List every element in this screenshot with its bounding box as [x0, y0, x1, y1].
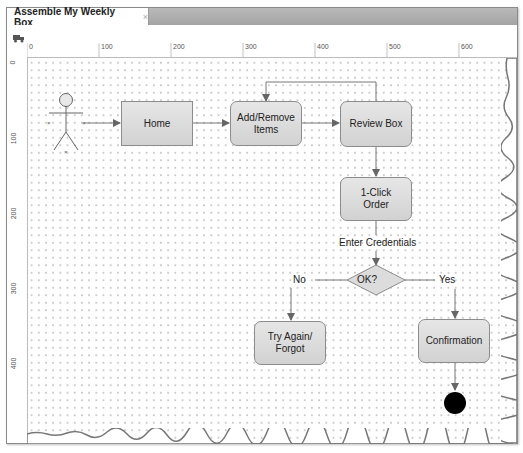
node-add-remove-items[interactable]: Add/RemoveItems	[230, 101, 302, 146]
node-1-click-line2: Order	[363, 199, 389, 210]
horizontal-ruler: 0 100 200 300 400 500 600	[27, 43, 517, 58]
torn-edge-bottom	[27, 428, 517, 444]
edge-label-no: No	[293, 274, 306, 285]
svg-text:×: ×	[47, 120, 51, 126]
ruler-h-200: 200	[173, 43, 185, 50]
ruler-h-600: 600	[461, 43, 473, 50]
node-try-again-line1: Try Again/	[268, 331, 313, 342]
svg-text:×: ×	[82, 120, 86, 126]
tab-assemble-my-weekly-box[interactable]: Assemble My Weekly Box ×	[7, 8, 149, 25]
tab-bar: Assemble My Weekly Box ×	[7, 8, 517, 25]
close-icon[interactable]: ×	[143, 12, 148, 22]
ruler-h-0: 0	[29, 43, 33, 50]
diagram-window: Assemble My Weekly Box × 0 100 200 300 4…	[6, 7, 518, 444]
torn-edge-right	[501, 58, 517, 443]
toolbar	[7, 25, 517, 43]
decision-label[interactable]: OK?	[357, 274, 377, 285]
edge-label-yes: Yes	[439, 274, 455, 285]
ruler-v-0: 0	[9, 61, 16, 65]
ruler-h-300: 300	[245, 43, 257, 50]
node-home[interactable]: Home	[121, 101, 193, 146]
node-home-label: Home	[144, 118, 171, 130]
ruler-h-100: 100	[101, 43, 113, 50]
ruler-v-400: 400	[10, 358, 17, 370]
edge-label-enter-credentials: Enter Credentials	[339, 237, 416, 248]
diagram-canvas[interactable]: ××× Home Add/RemoveItems Review Box 1-Cl…	[27, 58, 517, 443]
node-review-box[interactable]: Review Box	[340, 101, 412, 147]
node-confirmation-label: Confirmation	[426, 335, 483, 347]
node-try-again-forgot[interactable]: Try Again/Forgot	[254, 321, 326, 365]
ruler-v-300: 300	[10, 283, 17, 295]
node-add-remove-line2: Items	[254, 124, 278, 135]
ruler-v-200: 200	[10, 208, 17, 220]
node-add-remove-line1: Add/Remove	[237, 112, 295, 123]
node-1-click-label: 1-ClickOrder	[361, 187, 392, 211]
node-review-box-label: Review Box	[350, 118, 403, 130]
truck-icon[interactable]	[13, 29, 25, 47]
ruler-h-500: 500	[389, 43, 401, 50]
node-try-again-line2: Forgot	[276, 343, 305, 354]
actor-icon	[49, 94, 83, 151]
node-confirmation[interactable]: Confirmation	[418, 319, 490, 363]
ruler-h-400: 400	[317, 43, 329, 50]
node-add-remove-label: Add/RemoveItems	[237, 112, 295, 136]
final-state-icon	[444, 392, 466, 414]
node-1-click-order[interactable]: 1-ClickOrder	[340, 177, 412, 221]
svg-text:×: ×	[64, 149, 68, 155]
vertical-ruler: 0 100 200 300 400	[7, 57, 28, 443]
ruler-v-100: 100	[10, 133, 17, 145]
node-try-again-label: Try Again/Forgot	[268, 331, 313, 355]
node-1-click-line1: 1-Click	[361, 187, 392, 198]
